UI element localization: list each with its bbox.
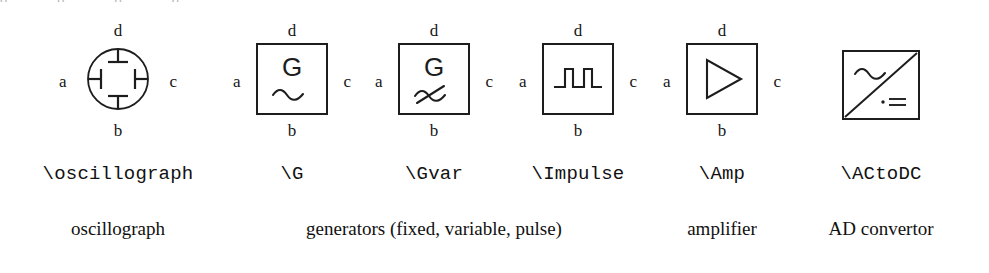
terminal-label-a: a xyxy=(663,73,671,90)
terminal-label-a: a xyxy=(233,73,241,90)
description-ad-convertor: AD convertor xyxy=(829,218,934,240)
description-row: oscillograph generators (fixed, variable… xyxy=(0,218,989,248)
symbol-stage-generator-pulse: d a c b xyxy=(498,18,658,146)
device-box-generator-pulse xyxy=(542,43,614,115)
device-box-generator-fixed: G xyxy=(256,43,328,115)
description-oscillograph: oscillograph xyxy=(71,218,165,240)
terminal-label-a: a xyxy=(519,73,527,90)
terminal-label-c: c xyxy=(343,73,351,90)
terminal-label-c: c xyxy=(629,73,637,90)
symbol-stage-ac-to-dc xyxy=(801,18,961,146)
symbol-stage-amplifier: d a c b xyxy=(642,18,802,146)
device-box-ac-to-dc xyxy=(842,50,920,120)
command-label-generator-variable: \Gvar xyxy=(405,163,463,185)
symbol-stage-generator-fixed: d a c b G xyxy=(212,18,372,146)
terminal-label-b: b xyxy=(574,122,583,139)
terminal-label-a: a xyxy=(59,73,67,90)
device-box-generator-variable: G xyxy=(398,43,470,115)
terminal-label-c: c xyxy=(169,73,177,90)
command-label-ac-to-dc: \ACtoDC xyxy=(840,163,921,185)
svg-text:G: G xyxy=(282,52,302,82)
terminal-label-b: b xyxy=(430,122,439,139)
terminal-label-d: d xyxy=(288,22,297,39)
amplifier-triangle-icon xyxy=(688,45,756,113)
generator-variable-icon: G xyxy=(400,45,468,113)
command-label-amplifier: \Amp xyxy=(699,163,745,185)
terminal-label-c: c xyxy=(485,73,493,90)
ac-to-dc-converter-icon xyxy=(844,52,918,118)
symbol-stage-generator-variable: d a c b G xyxy=(354,18,514,146)
command-label-generator-pulse: \Impulse xyxy=(532,163,625,185)
terminal-label-d: d xyxy=(574,22,583,39)
terminal-label-b: b xyxy=(718,122,727,139)
terminal-label-d: d xyxy=(430,22,439,39)
description-generators: generators (fixed, variable, pulse) xyxy=(306,218,562,240)
terminal-label-d: d xyxy=(718,22,727,39)
svg-text:G: G xyxy=(424,52,444,82)
generator-pulse-icon xyxy=(544,45,612,113)
command-name-row: \oscillograph \G \Gvar \Impulse \Amp \AC… xyxy=(0,163,989,193)
terminal-label-b: b xyxy=(288,122,297,139)
terminal-label-c: c xyxy=(773,73,781,90)
terminal-label-b: b xyxy=(114,122,123,139)
generator-fixed-icon: G xyxy=(258,45,326,113)
terminal-label-d: d xyxy=(114,22,123,39)
oscillograph-circle-icon xyxy=(79,40,157,118)
command-label-oscillograph: \oscillograph xyxy=(43,163,194,185)
symbol-stage-oscillograph: d a c b xyxy=(38,18,198,146)
terminal-label-a: a xyxy=(375,73,383,90)
description-amplifier: amplifier xyxy=(687,218,757,240)
device-box-amplifier xyxy=(686,43,758,115)
command-label-generator-fixed: \G xyxy=(280,163,303,185)
